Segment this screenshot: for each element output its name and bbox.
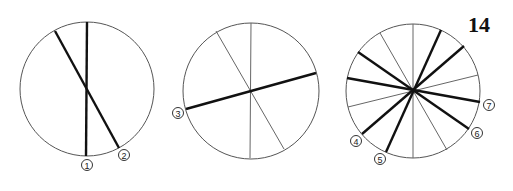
- circle-diagrams: 1234567: [0, 0, 513, 191]
- label-number-5: 5: [377, 155, 382, 165]
- label-number-6: 6: [474, 129, 479, 139]
- label-number-3: 3: [175, 109, 180, 119]
- page-number: 14: [468, 12, 490, 38]
- label-number-4: 4: [353, 137, 358, 147]
- label-number-7: 7: [486, 101, 491, 111]
- label-number-2: 2: [121, 151, 126, 161]
- label-number-1: 1: [84, 161, 89, 171]
